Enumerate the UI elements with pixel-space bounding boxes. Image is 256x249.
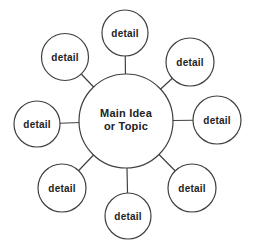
detail-node-label-bottom-left: detail (48, 183, 75, 194)
detail-node-label-left: detail (23, 119, 50, 130)
center-node-label-line2: or Topic (104, 120, 148, 132)
detail-node-label-top-left: detail (51, 52, 78, 63)
diagram-canvas: Main Ideaor Topicdetaildetaildetaildetai… (0, 0, 256, 249)
detail-node-label-right: detail (203, 115, 230, 126)
detail-node-label-bottom-right: detail (178, 183, 205, 194)
detail-node-label-top-right: detail (176, 57, 203, 68)
detail-node-label-bottom: detail (114, 211, 141, 222)
detail-node-label-top: detail (111, 28, 138, 39)
center-node-label-line1: Main Idea (100, 107, 153, 119)
cluster-diagram: Main Ideaor Topicdetaildetaildetaildetai… (0, 0, 256, 249)
